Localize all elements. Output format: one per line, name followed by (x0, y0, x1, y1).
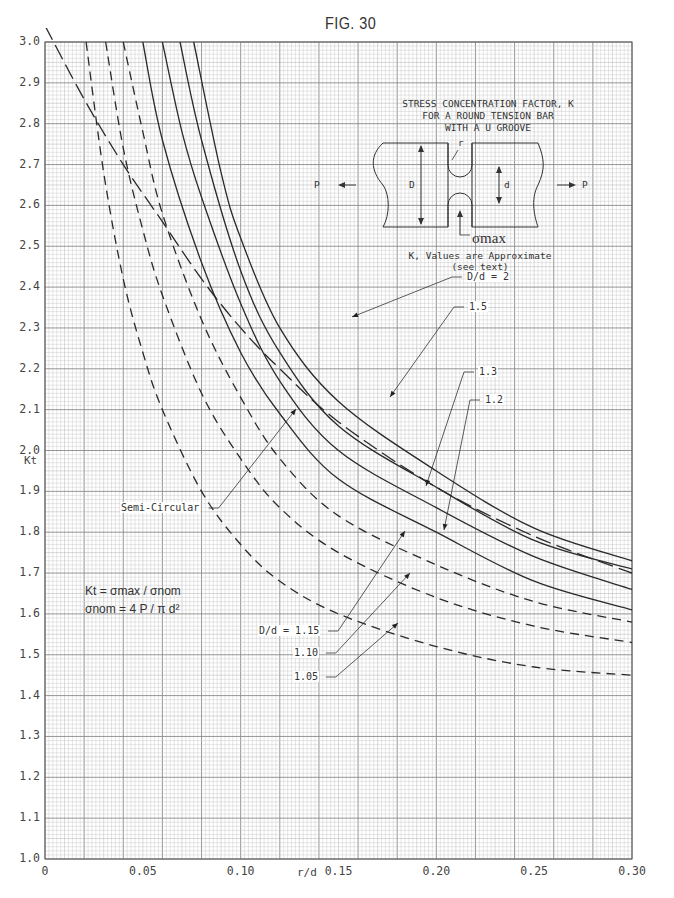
curve-label-1-2: 1.2 (484, 394, 504, 405)
curve-label-semi-circular: Semi-Circular (120, 502, 200, 513)
y-tick-label: 2.9 (6, 75, 40, 89)
y-tick-label: 1.6 (6, 606, 40, 620)
y-tick-label: 2.7 (6, 157, 40, 171)
formula-sigma-nom: σnom = 4 P / π d² (85, 602, 180, 616)
curve-label-1-3: 1.3 (478, 366, 498, 377)
y-tick-label: 1.1 (6, 810, 40, 824)
y-tick-label: 1.9 (6, 483, 40, 497)
y-tick-label: 1.3 (6, 728, 40, 742)
y-tick-label: 1.8 (6, 524, 40, 538)
curve-label-d-d-1-15: D/d = 1.15 (258, 625, 320, 636)
curve-label-1-10: 1.10 (293, 647, 319, 658)
y-tick-label: 1.5 (6, 647, 40, 661)
y-tick-label: 2.2 (6, 361, 40, 375)
title-line-1: STRESS CONCENTRATION FACTOR, K (368, 98, 608, 110)
y-tick-label: 2.4 (6, 279, 40, 293)
title-line-2: FOR A ROUND TENSION BAR (368, 110, 608, 122)
x-axis-label: r/d (297, 866, 317, 879)
x-tick-label: 0.25 (520, 864, 548, 878)
u-groove-bar-diagram (338, 117, 583, 237)
label-leader-lines (209, 277, 480, 677)
y-tick-label: 2.6 (6, 197, 40, 211)
sigma-max-label: σmax (472, 230, 506, 247)
x-tick-label: 0.05 (129, 864, 157, 878)
y-tick-label: 1.7 (6, 565, 40, 579)
x-tick-label: 0.30 (618, 864, 646, 878)
chart-title-block: STRESS CONCENTRATION FACTOR, K FOR A ROU… (368, 98, 608, 134)
y-tick-label: 2.8 (6, 116, 40, 130)
note-line-1: K, Values are Approximate (360, 250, 600, 261)
y-tick-label: 1.4 (6, 688, 40, 702)
x-tick-label: 0.10 (227, 864, 255, 878)
approximation-note: K, Values are Approximate (see text) (360, 250, 600, 272)
y-tick-label: 2.5 (6, 238, 40, 252)
diagram-P-right: P (582, 179, 588, 190)
curve-label-d-d-2: D/d = 2 (466, 271, 510, 282)
formula-kt: Kt = σmax / σnom (85, 584, 181, 598)
figure-label: FIG. 30 (325, 14, 376, 34)
diagram-D-label: D (409, 179, 415, 190)
diagram-d-label: d (504, 179, 510, 190)
x-tick-label: 0.15 (325, 864, 353, 878)
y-tick-label: 1.2 (6, 769, 40, 783)
y-axis-label: Kt (24, 454, 37, 467)
diagram-P-left: P (314, 179, 320, 190)
y-tick-label: 1.0 (6, 851, 40, 865)
diagram-r-label: r (458, 138, 463, 148)
x-tick-label: 0 (42, 864, 49, 878)
x-tick-label: 0.20 (422, 864, 450, 878)
y-tick-label: 2.3 (6, 320, 40, 334)
title-line-3: WITH A U GROOVE (368, 122, 608, 134)
chart-canvas (0, 0, 674, 898)
y-tick-label: 3.0 (6, 34, 40, 48)
curve-label-1-05: 1.05 (293, 671, 319, 682)
curve-label-1-5: 1.5 (468, 301, 488, 312)
y-tick-label: 2.1 (6, 402, 40, 416)
